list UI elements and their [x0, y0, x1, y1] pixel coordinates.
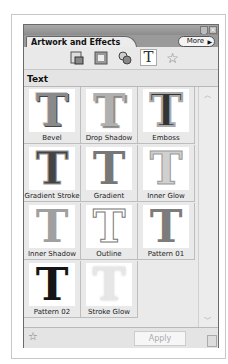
effect-outline[interactable]: T Outline: [81, 203, 138, 260]
category-toolbar: T ☆: [24, 47, 218, 69]
effect-emboss[interactable]: T Emboss: [138, 87, 195, 144]
minimize-button[interactable]: _: [200, 26, 208, 34]
text-t-icon: T: [150, 89, 183, 133]
effect-label: Drop Shadow: [81, 134, 137, 142]
text-t-icon: T: [93, 147, 126, 191]
effect-label: Pattern 01: [138, 250, 194, 258]
more-button[interactable]: More ▶: [178, 36, 215, 47]
effect-pattern-01[interactable]: T Pattern 01: [138, 203, 195, 260]
close-button[interactable]: ×: [209, 26, 217, 34]
scroll-down-icon[interactable]: ﹀: [204, 315, 211, 325]
text-icon[interactable]: T: [140, 49, 157, 66]
thumbnail: T: [29, 205, 75, 248]
thumbnail: T: [29, 89, 75, 132]
thumbnail: T: [143, 147, 189, 190]
effect-label: Outline: [81, 250, 137, 258]
panel-footer: ☆ Apply: [24, 327, 218, 348]
resize-grip[interactable]: [207, 335, 217, 347]
more-label: More: [187, 37, 204, 45]
vertical-scrollbar[interactable]: ︿ ﹀: [198, 87, 218, 327]
thumbnail: T: [143, 89, 189, 132]
apply-button[interactable]: Apply: [134, 331, 186, 346]
thumbnail: T: [29, 263, 75, 306]
artwork-icon[interactable]: [68, 49, 85, 66]
effect-inner-glow[interactable]: T Inner Glow: [138, 145, 195, 202]
text-t-icon: T: [93, 89, 126, 133]
text-t-icon: T: [36, 205, 69, 249]
panel-titlebar[interactable]: _ ×: [24, 25, 218, 35]
effect-label: Emboss: [138, 134, 194, 142]
thumbnail: T: [86, 89, 132, 132]
effect-stroke-glow[interactable]: T Stroke Glow: [81, 261, 138, 318]
text-t-icon: T: [93, 205, 126, 249]
effect-label: Gradient: [81, 192, 137, 200]
effect-label: Pattern 02: [24, 308, 80, 316]
text-t-icon: T: [150, 205, 183, 249]
effect-gradient[interactable]: T Gradient: [81, 145, 138, 202]
effect-bevel[interactable]: T Bevel: [24, 87, 81, 144]
thumbnail: T: [86, 205, 132, 248]
thumbnail: T: [86, 263, 132, 306]
effects-grid: T Bevel T Drop Shadow T Emboss T Gradien…: [24, 87, 198, 327]
effect-label: Inner Glow: [138, 192, 194, 200]
thumbnail: T: [86, 147, 132, 190]
effect-inner-shadow[interactable]: T Inner Shadow: [24, 203, 81, 260]
favorites-icon[interactable]: ☆: [164, 49, 181, 66]
tab-row: Artwork and Effects More ▶: [24, 35, 218, 47]
effect-label: Gradient Stroke: [24, 192, 80, 200]
thumbnail: T: [29, 147, 75, 190]
effect-pattern-02[interactable]: T Pattern 02: [24, 261, 81, 318]
effect-label: Inner Shadow: [24, 250, 80, 258]
add-favorite-icon[interactable]: ☆: [28, 330, 38, 343]
effect-drop-shadow[interactable]: T Drop Shadow: [81, 87, 138, 144]
effect-label: Stroke Glow: [81, 308, 137, 316]
effect-gradient-stroke[interactable]: T Gradient Stroke: [24, 145, 81, 202]
text-t-icon: T: [36, 263, 69, 307]
frames-icon[interactable]: [92, 49, 109, 66]
effects-icon[interactable]: [116, 49, 133, 66]
artwork-effects-panel: _ × Artwork and Effects More ▶ T ☆ Text …: [23, 24, 219, 348]
scroll-up-icon[interactable]: ︿: [204, 89, 211, 99]
text-t-icon: T: [36, 89, 69, 133]
effect-label: Bevel: [24, 134, 80, 142]
text-t-icon: T: [150, 147, 183, 191]
text-t-icon: T: [36, 147, 69, 191]
text-t-icon: T: [93, 263, 126, 307]
thumbnail: T: [143, 205, 189, 248]
play-arrow-icon: ▶: [207, 37, 212, 46]
